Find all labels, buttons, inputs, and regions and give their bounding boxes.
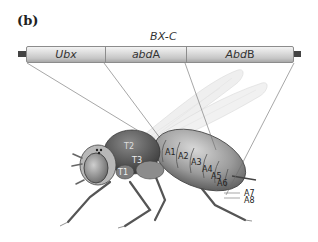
label-t1: T1 xyxy=(117,168,128,177)
label-a1: A1 xyxy=(165,148,176,157)
label-a2: A2 xyxy=(178,152,189,161)
label-t3: T3 xyxy=(131,156,142,165)
label-t2: T2 xyxy=(123,142,134,151)
label-a8: A8 xyxy=(244,196,255,205)
label-a3: A3 xyxy=(191,158,202,167)
label-a6: A6 xyxy=(217,179,228,188)
segment-labels: T2 T1 T3 A1 A2 A3 A4 A5 A6 A7 A8 xyxy=(0,0,318,242)
